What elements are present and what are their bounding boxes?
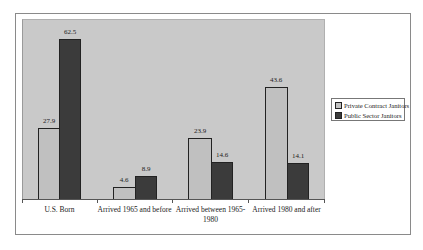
value-label: 23.9	[185, 127, 215, 135]
bar-private-1980-after	[265, 87, 288, 200]
value-label: 4.6	[109, 176, 139, 184]
category-label-1965-1980: Arrived between 1965- 1980	[172, 205, 249, 225]
value-label: 14.6	[207, 151, 237, 159]
category-label-us-born: U.S. Born	[22, 205, 97, 215]
x-tick	[172, 199, 173, 203]
value-label: 62.5	[55, 28, 85, 36]
x-axis	[22, 199, 325, 200]
x-tick	[97, 199, 98, 203]
bar-private-us-born	[38, 128, 60, 200]
category-label-line: 1980	[172, 215, 249, 225]
category-label-line: Arrived between 1965-	[172, 205, 249, 215]
bar-private-1965-1980	[188, 138, 212, 200]
legend-item-private: Private Contract Janitors	[335, 101, 409, 110]
legend-swatch-light-icon	[335, 102, 342, 109]
value-label: 27.9	[34, 117, 64, 125]
legend-swatch-dark-icon	[335, 112, 342, 119]
value-label: 14.1	[283, 152, 313, 160]
value-label: 8.9	[131, 165, 161, 173]
x-tick	[22, 199, 23, 203]
legend: Private Contract Janitors Public Sector …	[331, 98, 405, 121]
legend-item-public: Public Sector Janitors	[335, 111, 402, 120]
x-tick	[324, 199, 325, 203]
bar-public-1980-after	[287, 163, 309, 200]
x-tick	[248, 199, 249, 203]
legend-label: Public Sector Janitors	[344, 112, 402, 119]
category-label-1965-before: Arrived 1965 and before	[97, 205, 172, 215]
category-label-1980-after: Arrived 1980 and after	[248, 205, 325, 215]
legend-label: Private Contract Janitors	[344, 102, 409, 109]
value-label: 43.6	[261, 76, 291, 84]
bar-public-1965-1980	[211, 162, 233, 200]
